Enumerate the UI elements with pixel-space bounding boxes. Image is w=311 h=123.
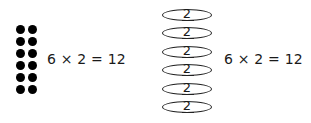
group-size-label: 2 (163, 25, 211, 39)
dot (16, 85, 25, 94)
dot (16, 37, 25, 46)
group-size-label: 2 (163, 7, 211, 21)
dot (16, 25, 25, 34)
dot-array-equation: 6 × 2 = 12 (47, 51, 126, 67)
multiplication-diagram: 6 × 2 = 12 222222 6 × 2 = 12 (0, 0, 311, 123)
group-oval: 2 (162, 101, 212, 113)
dot (16, 61, 25, 70)
group-oval: 2 (162, 27, 212, 39)
group-size-label: 2 (163, 44, 211, 58)
dot (28, 85, 37, 94)
group-oval: 2 (162, 46, 212, 58)
dot (28, 61, 37, 70)
dot (16, 49, 25, 58)
dot (28, 49, 37, 58)
group-oval: 2 (162, 64, 212, 76)
dot (28, 37, 37, 46)
dot (16, 73, 25, 82)
group-stack-equation: 6 × 2 = 12 (224, 51, 303, 67)
dot (28, 25, 37, 34)
group-size-label: 2 (163, 62, 211, 76)
group-size-label: 2 (163, 99, 211, 113)
dot (28, 73, 37, 82)
group-oval: 2 (162, 9, 212, 21)
group-oval: 2 (162, 83, 212, 95)
group-size-label: 2 (163, 81, 211, 95)
